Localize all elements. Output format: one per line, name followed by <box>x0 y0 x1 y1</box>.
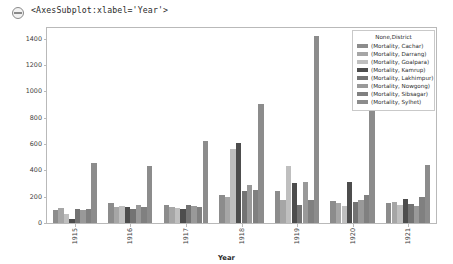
bar <box>314 36 319 223</box>
legend-item: (Mortality, Sibsagar) <box>357 90 430 98</box>
chart-legend: None,District (Mortality, Cachar)(Mortal… <box>352 30 435 111</box>
legend-swatch <box>357 44 368 48</box>
legend-label: (Mortality, Kamrup) <box>371 67 426 73</box>
x-tick-label: 1915 <box>71 228 79 244</box>
legend-label: (Mortality, Darrang) <box>371 51 426 57</box>
y-tick-label: 1000 <box>26 87 42 95</box>
matplotlib-figure: 0200400600800100012001400 19151916191719… <box>0 22 453 264</box>
bar <box>91 163 96 223</box>
legend-label: (Mortality, Sylhet) <box>371 99 421 105</box>
x-tick-mark <box>130 224 131 227</box>
x-tick-mark <box>297 224 298 227</box>
axes-repr-text: <AxesSubplot:xlabel='Year'> <box>31 5 168 15</box>
bar <box>425 165 430 223</box>
legend-swatch <box>357 76 368 80</box>
x-tick-label: 1918 <box>238 228 246 244</box>
x-tick-label: 1919 <box>293 228 301 244</box>
legend-swatch <box>357 92 368 96</box>
legend-label: (Mortality, Lakhimpur) <box>371 75 433 81</box>
legend-item: (Mortality, Kamrup) <box>357 66 430 74</box>
bar <box>147 166 152 223</box>
x-axis-title: Year <box>0 254 453 262</box>
legend-item: (Mortality, Cachar) <box>357 42 430 50</box>
y-tick-label: 1400 <box>26 35 42 43</box>
x-tick-mark <box>242 224 243 227</box>
bar <box>203 141 208 223</box>
legend-swatch <box>357 68 368 72</box>
x-tick-mark <box>75 224 76 227</box>
legend-label: (Mortality, Nowgong) <box>371 83 430 89</box>
legend-label: (Mortality, Goalpara) <box>371 59 429 65</box>
legend-item: (Mortality, Darrang) <box>357 50 430 58</box>
notebook-output-header: <AxesSubplot:xlabel='Year'> <box>0 0 453 24</box>
legend-title: None,District <box>357 34 430 40</box>
legend-item: (Mortality, Goalpara) <box>357 58 430 66</box>
legend-item: (Mortality, Nowgong) <box>357 82 430 90</box>
legend-swatch <box>357 60 368 64</box>
x-tick-label: 1921 <box>404 228 412 244</box>
x-tick-mark <box>408 224 409 227</box>
y-axis-tick-labels: 0200400600800100012001400 <box>0 27 42 224</box>
legend-swatch <box>357 52 368 56</box>
x-tick-label: 1920 <box>349 228 357 244</box>
x-tick-mark <box>353 224 354 227</box>
legend-rows: (Mortality, Cachar)(Mortality, Darrang)(… <box>357 42 430 106</box>
y-tick-label: 1200 <box>26 61 42 69</box>
legend-item: (Mortality, Sylhet) <box>357 98 430 106</box>
bar <box>369 110 374 223</box>
x-tick-mark <box>186 224 187 227</box>
legend-label: (Mortality, Sibsagar) <box>371 91 428 97</box>
legend-label: (Mortality, Cachar) <box>371 43 423 49</box>
bar <box>258 104 263 223</box>
x-axis-tick-labels: 1915191619171918191919201921 <box>46 228 437 254</box>
legend-item: (Mortality, Lakhimpur) <box>357 74 430 82</box>
x-tick-label: 1916 <box>126 228 134 244</box>
legend-swatch <box>357 84 368 88</box>
legend-swatch <box>357 100 368 104</box>
x-tick-label: 1917 <box>182 228 190 244</box>
collapse-circle-icon[interactable] <box>12 7 24 19</box>
